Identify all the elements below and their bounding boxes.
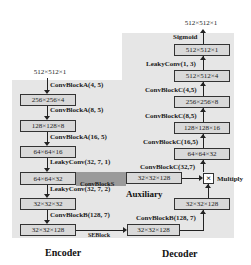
decoder-box: 32×32×128: [174, 198, 230, 210]
encoder-box: 64×64×16: [20, 146, 76, 158]
encoder-box: 128×128×8: [20, 120, 76, 132]
decoder-output-label: 512×512×1: [185, 19, 217, 27]
seblock-label: SEBlock: [88, 232, 110, 238]
op-label: ConvBlockC(32,7): [140, 163, 195, 171]
op-label: ConvBlockC(8,5): [145, 112, 197, 120]
arrow-up-icon: [200, 160, 206, 164]
arrow-up-icon: [200, 210, 206, 214]
op-label: LeakyConv(1, 3): [146, 60, 196, 68]
connector: [180, 230, 204, 231]
op-label: ConvBlockC(4,5): [145, 86, 197, 94]
encoder-box: 32×32×128: [20, 224, 76, 236]
op-label: ConvBlockB(128, 7): [50, 211, 110, 219]
decoder-box: 128×128×16: [174, 122, 230, 134]
connector: [203, 33, 204, 44]
op-label: ConvBlockC(16,5): [143, 138, 198, 146]
multiply-node: ×: [203, 173, 214, 184]
op-label: ConvBlockA(16, 5): [50, 133, 107, 141]
encoder-input: 512×512×1: [22, 66, 78, 78]
decoder-title: Decoder: [162, 248, 198, 259]
decoder-box: 256×256×8: [174, 96, 230, 108]
multiply-label: Multiply: [217, 175, 243, 183]
arrow-up-icon: [200, 82, 206, 86]
op-label: ConvBlockA(8, 5): [50, 106, 103, 114]
decoder-box: 32×32×128: [127, 224, 180, 236]
op-label: LeakyConv(32, 7, 1): [50, 158, 110, 166]
decoder-box: 512×512×1: [174, 44, 230, 56]
arrow-up-icon: [200, 108, 206, 112]
decoder-box: 64×64×32: [174, 148, 230, 160]
decoder-box: 512×512×4: [174, 70, 230, 82]
op-label: ConvBlockA(4, 5): [50, 81, 103, 89]
encoder-box: 32×32×32: [20, 198, 76, 210]
encoder-title: Encoder: [45, 247, 81, 258]
convblocks-label: ConvBlockS: [80, 180, 114, 187]
arrow-up-icon: [205, 184, 211, 188]
encoder-box: 64×64×32: [20, 172, 76, 185]
decoder-output: 512×512×1: [175, 17, 227, 29]
connector: [182, 178, 200, 179]
arrow-up-icon: [200, 134, 206, 138]
arrow-up-icon: [200, 29, 206, 33]
encoder-box: 256×256×4: [20, 94, 76, 106]
arrow-up-icon: [200, 56, 206, 60]
auxiliary-title: Auxiliary: [126, 189, 163, 199]
seblock-connector: [76, 230, 124, 231]
op-label: Sigmoid: [173, 33, 198, 41]
op-label: ConvBlockB(128, 7): [136, 214, 196, 222]
encoder-input-label: 512×512×1: [34, 68, 66, 76]
auxiliary-box: 32×32×128: [126, 172, 182, 184]
